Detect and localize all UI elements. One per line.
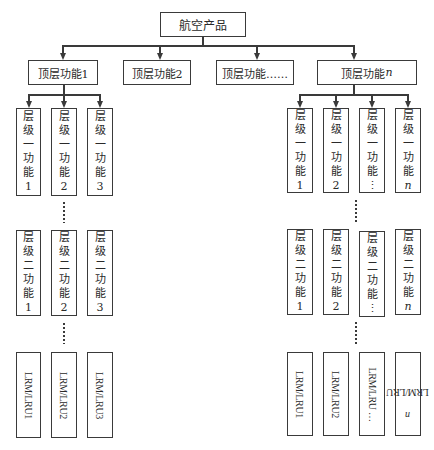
char: 级 bbox=[59, 245, 70, 259]
char: 功 bbox=[367, 274, 378, 288]
right-lru-n: LRM/LRUn bbox=[395, 352, 421, 436]
char: 级 bbox=[295, 244, 306, 258]
index: 1 bbox=[25, 301, 32, 315]
char: 功 bbox=[23, 273, 34, 287]
char: 功 bbox=[331, 151, 342, 165]
char: 级 bbox=[403, 123, 414, 137]
char: 级 bbox=[95, 124, 106, 138]
lru-label: LRM/LRU1 bbox=[295, 370, 306, 417]
right-level2-function-1: 层 级 二 功 能 1 bbox=[287, 229, 313, 315]
char: 层 bbox=[295, 230, 306, 244]
char: 能 bbox=[403, 286, 414, 300]
char: 功 bbox=[23, 152, 34, 166]
right-ellipsis-dots-1 bbox=[355, 199, 357, 223]
top-function-label: 顶层功能 bbox=[341, 65, 385, 81]
top-function-n: 顶层功能n bbox=[317, 60, 417, 85]
right-drop bbox=[335, 94, 337, 101]
right-level1-function-1: 层 级 一 功 能 1 bbox=[287, 108, 313, 193]
left-level1-function-1: 层 级 一 功 能 1 bbox=[16, 108, 41, 196]
arrow-icon bbox=[297, 101, 303, 108]
index: 1 bbox=[297, 179, 304, 193]
right-drop bbox=[371, 94, 373, 101]
left-level1-function-2: 层 级 一 功 能 2 bbox=[51, 108, 77, 196]
right-level2-function-n: 层 级 二 功 能 n bbox=[395, 229, 421, 315]
char: 能 bbox=[403, 165, 414, 179]
char: 能 bbox=[295, 165, 306, 179]
char: 级 bbox=[367, 246, 378, 260]
char: 层 bbox=[59, 110, 70, 124]
left-ellipsis-dots-1 bbox=[63, 201, 65, 223]
index: n bbox=[404, 179, 411, 193]
char: 一 bbox=[403, 137, 414, 151]
index: 3 bbox=[97, 180, 104, 194]
top-function-ellipsis: 顶层功能…… bbox=[216, 60, 294, 85]
left-level1-function-3: 层 级 一 功 能 3 bbox=[87, 108, 113, 196]
index: 1 bbox=[25, 180, 32, 194]
char: 级 bbox=[23, 245, 34, 259]
char: 功 bbox=[295, 272, 306, 286]
char: 能 bbox=[95, 287, 106, 301]
arrow-icon bbox=[26, 101, 32, 108]
char: 能 bbox=[367, 165, 378, 179]
right-lru-1: LRM/LRU1 bbox=[287, 352, 313, 436]
char: 层 bbox=[23, 231, 34, 245]
char: 二 bbox=[23, 259, 34, 273]
right-lru-2: LRM/LRU2 bbox=[323, 352, 349, 436]
char: 功 bbox=[95, 152, 106, 166]
char: 一 bbox=[59, 138, 70, 152]
right-level1-function-ellipsis: 层 级 一 功 能 ⋮ bbox=[359, 108, 385, 193]
left-lru-3: LRM/LRU3 bbox=[87, 352, 113, 438]
right-level2-function-2: 层 级 二 功 能 2 bbox=[323, 229, 349, 315]
char: 能 bbox=[331, 286, 342, 300]
char: 二 bbox=[403, 258, 414, 272]
char: 能 bbox=[367, 288, 378, 302]
top-function-label: 顶层功能…… bbox=[222, 65, 288, 81]
lru-label: LRM/LRU2 bbox=[59, 371, 70, 418]
right-ellipsis-dots-2 bbox=[355, 321, 357, 345]
char: 能 bbox=[59, 287, 70, 301]
root-label: 航空产品 bbox=[179, 16, 227, 33]
char: 级 bbox=[59, 124, 70, 138]
index: n bbox=[404, 300, 411, 314]
lru-label: LRM/LRU2 bbox=[331, 370, 342, 417]
char: 级 bbox=[403, 244, 414, 258]
index: ⋮ bbox=[367, 179, 378, 193]
char: 二 bbox=[367, 260, 378, 274]
left-lru-1: LRM/LRU1 bbox=[16, 352, 41, 438]
top-function-2: 顶层功能2 bbox=[123, 60, 191, 85]
char: 级 bbox=[331, 244, 342, 258]
top-function-label: 顶层功能1 bbox=[38, 65, 89, 81]
lru-label: LRM/LRU1 bbox=[23, 371, 34, 418]
char: 能 bbox=[59, 166, 70, 180]
char: 能 bbox=[331, 165, 342, 179]
arrow-icon bbox=[405, 101, 411, 108]
index: ⋮ bbox=[367, 302, 378, 316]
char: 层 bbox=[295, 109, 306, 123]
right-lru-ellipsis: LRM/LRU … bbox=[359, 352, 385, 436]
index: 2 bbox=[61, 180, 68, 194]
left-level2-function-2: 层 级 二 功 能 2 bbox=[51, 230, 77, 316]
char: 二 bbox=[295, 258, 306, 272]
char: 功 bbox=[331, 272, 342, 286]
arrow-icon bbox=[254, 53, 260, 60]
right-level1-function-n: 层 级 一 功 能 n bbox=[395, 108, 421, 193]
char: 层 bbox=[367, 109, 378, 123]
index: 1 bbox=[297, 300, 304, 314]
char: 层 bbox=[59, 231, 70, 245]
char: 层 bbox=[331, 230, 342, 244]
char: 级 bbox=[23, 124, 34, 138]
char: 能 bbox=[23, 166, 34, 180]
lru-label: LRM/LRU bbox=[387, 386, 429, 397]
char: 层 bbox=[95, 110, 106, 124]
char: 级 bbox=[331, 123, 342, 137]
lru-label: LRM/LRU3 bbox=[95, 371, 106, 418]
char: 功 bbox=[403, 151, 414, 165]
char: 功 bbox=[95, 273, 106, 287]
arrow-icon bbox=[369, 101, 375, 108]
char: 层 bbox=[403, 230, 414, 244]
char: 层 bbox=[95, 231, 106, 245]
index: 2 bbox=[333, 300, 340, 314]
char: 二 bbox=[59, 259, 70, 273]
left-lru-2: LRM/LRU2 bbox=[51, 352, 77, 438]
arrow-icon bbox=[351, 53, 357, 60]
